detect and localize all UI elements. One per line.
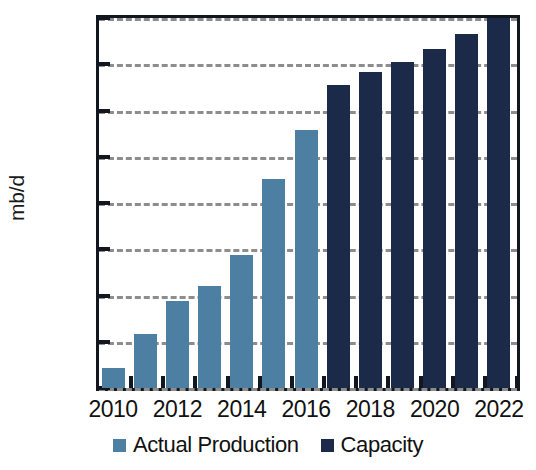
y-tick-mark <box>99 16 110 20</box>
x-tick-mark <box>161 376 165 388</box>
x-tick-mark <box>258 376 262 388</box>
bar-2021[interactable] <box>455 34 478 388</box>
legend-label: Actual Production <box>133 434 299 456</box>
x-tick-mark <box>322 376 326 388</box>
chart-legend: Actual ProductionCapacity <box>0 434 536 456</box>
bar-2013[interactable] <box>198 286 221 388</box>
bar-2019[interactable] <box>391 62 414 388</box>
bar-2015[interactable] <box>262 179 285 388</box>
bar-2012[interactable] <box>166 301 189 388</box>
y-axis-title: mb/d <box>5 148 29 248</box>
x-tick-mark <box>354 376 358 388</box>
bar-2022[interactable] <box>487 18 510 388</box>
plot-area <box>96 15 520 391</box>
x-tick-mark <box>290 376 294 388</box>
x-tick-mark <box>515 376 519 388</box>
bar-2018[interactable] <box>359 72 382 388</box>
x-tick-mark <box>129 376 133 388</box>
y-tick-mark <box>99 294 110 298</box>
x-tick-mark <box>193 376 197 388</box>
x-tick-mark <box>483 376 487 388</box>
x-tick-mark <box>451 376 455 388</box>
legend-item-actual-production[interactable]: Actual Production <box>113 434 299 456</box>
plot-inner <box>99 18 517 388</box>
bar-2016[interactable] <box>295 130 318 388</box>
gridline <box>99 18 517 21</box>
bar-chart: mb/d Actual ProductionCapacity 2.22.63.0… <box>0 0 536 470</box>
bar-2020[interactable] <box>423 49 446 388</box>
bar-2014[interactable] <box>230 255 253 388</box>
y-tick-mark <box>99 247 110 251</box>
bar-2011[interactable] <box>134 334 157 388</box>
legend-item-capacity[interactable]: Capacity <box>321 434 423 456</box>
y-tick-mark <box>99 340 110 344</box>
y-tick-mark <box>99 155 110 159</box>
legend-swatch-icon <box>321 439 334 452</box>
y-tick-mark <box>99 201 110 205</box>
y-tick-mark <box>99 109 110 113</box>
x-tick-mark <box>419 376 423 388</box>
y-tick-mark <box>99 62 110 66</box>
legend-label: Capacity <box>341 434 423 456</box>
bar-2017[interactable] <box>327 85 350 388</box>
gridline <box>99 388 517 391</box>
x-tick-mark <box>386 376 390 388</box>
bar-2010[interactable] <box>102 368 125 388</box>
x-tick-label-2022: 2022 <box>459 396 536 423</box>
legend-swatch-icon <box>113 439 126 452</box>
x-tick-mark <box>226 376 230 388</box>
